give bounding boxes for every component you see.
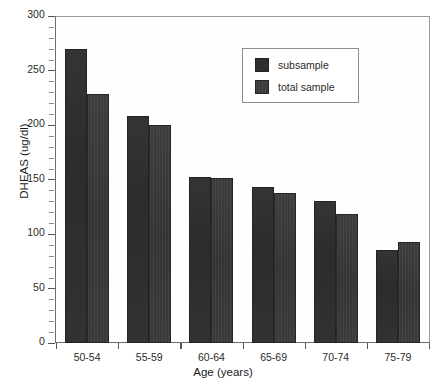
y-axis-title: DHEAS (ug/dl) bbox=[18, 91, 30, 231]
x-category-label-50-54: 50-54 bbox=[56, 351, 118, 363]
bar-65-69-subsample bbox=[252, 187, 274, 343]
legend-label: subsample bbox=[278, 59, 329, 71]
x-category-label-55-59: 55-59 bbox=[118, 351, 180, 363]
x-tick-mark bbox=[367, 343, 368, 349]
bar-70-74-total-sample bbox=[336, 214, 358, 343]
y-minor-tick bbox=[49, 136, 54, 137]
y-minor-tick bbox=[49, 49, 54, 50]
y-minor-tick bbox=[49, 190, 54, 191]
y-minor-tick bbox=[49, 212, 54, 213]
y-minor-tick bbox=[49, 114, 54, 115]
x-tick-mark bbox=[429, 343, 430, 349]
y-minor-tick bbox=[49, 310, 54, 311]
bar-50-54-total-sample bbox=[87, 94, 109, 343]
y-tick-mark bbox=[48, 179, 55, 180]
y-minor-tick bbox=[49, 27, 54, 28]
x-tick-mark bbox=[243, 343, 244, 349]
bar-60-64-subsample bbox=[189, 177, 211, 343]
y-tick-label: 0 bbox=[39, 335, 45, 347]
x-tick-mark bbox=[118, 343, 119, 349]
bar-65-69-total-sample bbox=[274, 193, 296, 343]
x-tick-mark-origin bbox=[56, 343, 57, 349]
y-minor-tick bbox=[49, 81, 54, 82]
bar-70-74-subsample bbox=[314, 201, 336, 343]
y-minor-tick bbox=[49, 267, 54, 268]
y-minor-tick bbox=[49, 169, 54, 170]
bar-60-64-total-sample bbox=[211, 178, 233, 343]
y-minor-tick bbox=[49, 38, 54, 39]
y-tick-mark bbox=[48, 234, 55, 235]
y-tick-label: 250 bbox=[27, 63, 45, 75]
bar-50-54-subsample bbox=[65, 49, 87, 343]
bar-55-59-subsample bbox=[127, 116, 149, 343]
y-tick-label: 300 bbox=[27, 8, 45, 20]
legend-item-subsample: subsample bbox=[255, 58, 329, 72]
y-minor-tick bbox=[49, 256, 54, 257]
y-tick-mark bbox=[48, 125, 55, 126]
y-minor-tick bbox=[49, 278, 54, 279]
y-minor-tick bbox=[49, 60, 54, 61]
y-minor-tick bbox=[49, 245, 54, 246]
legend-swatch-icon bbox=[255, 80, 269, 94]
x-category-label-65-69: 65-69 bbox=[243, 351, 305, 363]
y-minor-tick bbox=[49, 223, 54, 224]
y-minor-tick bbox=[49, 92, 54, 93]
bar-55-59-total-sample bbox=[149, 125, 171, 343]
legend-label: total sample bbox=[278, 81, 335, 93]
y-tick-mark bbox=[48, 343, 55, 344]
y-minor-tick bbox=[49, 103, 54, 104]
bar-75-79-subsample bbox=[376, 250, 398, 343]
y-minor-tick bbox=[49, 147, 54, 148]
y-tick-label: 50 bbox=[33, 281, 45, 293]
x-axis-title: Age (years) bbox=[0, 366, 446, 378]
legend: subsample total sample bbox=[242, 48, 359, 103]
dheas-by-age-bar-chart: 050100150200250300 DHEAS (ug/dl) 50-5455… bbox=[0, 0, 446, 382]
x-category-label-60-64: 60-64 bbox=[180, 351, 242, 363]
y-tick-mark bbox=[48, 288, 55, 289]
y-tick-mark bbox=[48, 70, 55, 71]
y-tick-mark bbox=[48, 16, 55, 17]
bar-75-79-total-sample bbox=[398, 242, 420, 343]
y-minor-tick bbox=[49, 201, 54, 202]
y-minor-tick bbox=[49, 158, 54, 159]
x-category-label-75-79: 75-79 bbox=[367, 351, 429, 363]
legend-item-total-sample: total sample bbox=[255, 80, 335, 94]
legend-swatch-icon bbox=[255, 58, 269, 72]
x-tick-mark bbox=[305, 343, 306, 349]
y-minor-tick bbox=[49, 299, 54, 300]
y-minor-tick bbox=[49, 332, 54, 333]
x-category-label-70-74: 70-74 bbox=[305, 351, 367, 363]
y-minor-tick bbox=[49, 321, 54, 322]
x-tick-mark bbox=[180, 343, 181, 349]
